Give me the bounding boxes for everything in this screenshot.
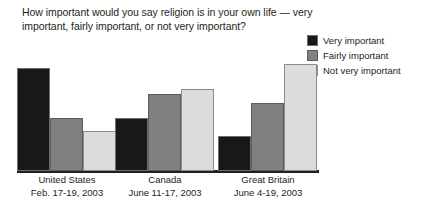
bar-canada-very-important (115, 118, 148, 170)
bar-united-states-very-important (17, 68, 50, 171)
category-label-canada: Canada June 11-17, 2003 (115, 174, 215, 199)
bar-canada-fairly-important (148, 94, 181, 170)
plot-area (0, 55, 433, 173)
bar-united-states-fairly-important (50, 118, 83, 170)
bar-great-britain-very-important (218, 136, 251, 171)
category-date-united-states: Feb. 17-19, 2003 (17, 187, 117, 200)
chart-figure: How important would you say religion is … (0, 0, 433, 207)
category-name-united-states: United States (17, 174, 117, 187)
bar-group-united-states (17, 58, 117, 171)
page-title: How important would you say religion is … (22, 6, 352, 33)
x-axis-labels: United States Feb. 17-19, 2003 Canada Ju… (0, 174, 433, 207)
category-name-great-britain: Great Britain (218, 174, 318, 187)
category-name-canada: Canada (115, 174, 215, 187)
bar-canada-not-very-important (181, 89, 214, 171)
category-date-canada: June 11-17, 2003 (115, 187, 215, 200)
legend-item-very-important: Very important (307, 33, 427, 47)
legend-swatch-very-important (307, 35, 318, 46)
bar-united-states-not-very-important (83, 131, 116, 171)
bar-group-canada (115, 58, 215, 171)
category-date-great-britain: June 4-19, 2003 (218, 187, 318, 200)
bar-great-britain-not-very-important (284, 64, 317, 170)
category-label-united-states: United States Feb. 17-19, 2003 (17, 174, 117, 199)
bar-great-britain-fairly-important (251, 103, 284, 171)
category-label-great-britain: Great Britain June 4-19, 2003 (218, 174, 318, 199)
bar-group-great-britain (218, 58, 318, 171)
legend-label-very-important: Very important (323, 35, 384, 46)
